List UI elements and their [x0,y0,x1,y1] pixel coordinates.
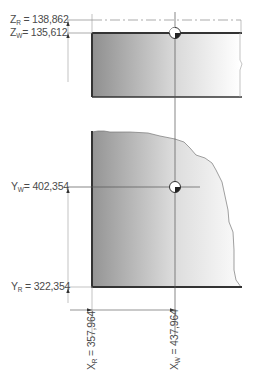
side-view-workpiece [92,33,242,97]
workpiece-zero-marker-side [170,28,181,39]
z-w-label: ZW= 135,612 [10,27,67,40]
workpiece-zero-marker-top [170,182,181,193]
z-r-reference-line [67,14,241,33]
x-r-label: XR = 357,964 [86,311,99,370]
y-r-label: YR = 322,354 [11,281,70,294]
y-w-label: YW= 402,354 [11,181,69,194]
top-view-workpiece [91,131,242,288]
z-r-label: ZR = 138,862 [10,14,69,27]
x-w-label: XW = 437,964 [169,309,182,370]
